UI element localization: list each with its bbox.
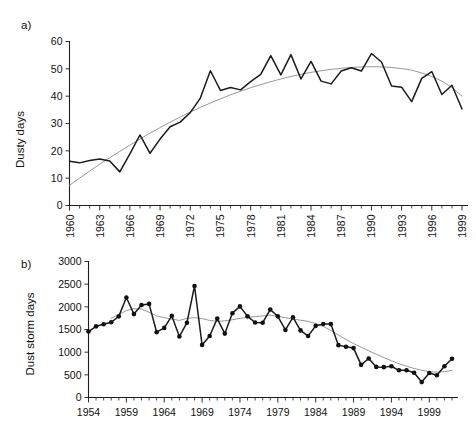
y-tick-label: 0 bbox=[76, 391, 82, 403]
data-point bbox=[329, 322, 334, 327]
data-point bbox=[101, 322, 106, 327]
data-point bbox=[223, 331, 228, 336]
x-tick-label: 1975 bbox=[214, 214, 226, 238]
data-point bbox=[397, 368, 402, 373]
panel-b-x-tick-marks bbox=[89, 398, 453, 403]
data-point bbox=[253, 320, 258, 325]
data-point bbox=[154, 330, 159, 335]
data-point bbox=[291, 315, 296, 320]
y-tick-label: 40 bbox=[51, 90, 63, 102]
data-point bbox=[94, 324, 99, 329]
panel-b-series-line bbox=[89, 286, 453, 382]
x-tick-label: 1996 bbox=[426, 214, 438, 238]
data-point bbox=[245, 314, 250, 319]
y-tick-label: 1000 bbox=[58, 346, 82, 358]
panel-a-tag: a) bbox=[21, 19, 31, 31]
y-tick-label: 3000 bbox=[58, 255, 82, 267]
x-tick-label: 1978 bbox=[245, 214, 257, 238]
data-point bbox=[192, 284, 197, 289]
x-tick-label: 1999 bbox=[418, 406, 442, 418]
data-point bbox=[404, 368, 409, 373]
panel-b-trend-line bbox=[111, 309, 452, 372]
data-point bbox=[268, 307, 273, 312]
x-tick-label: 1972 bbox=[184, 214, 196, 238]
data-point bbox=[450, 356, 455, 361]
y-tick-label: 1500 bbox=[58, 323, 82, 335]
data-point bbox=[147, 302, 152, 307]
data-point bbox=[412, 370, 417, 375]
data-point bbox=[124, 295, 129, 300]
x-tick-label: 1960 bbox=[64, 214, 76, 238]
data-point bbox=[359, 363, 364, 368]
y-tick-label: 20 bbox=[51, 145, 63, 157]
data-point bbox=[207, 334, 212, 339]
data-point bbox=[306, 334, 311, 339]
panel-b: b) Dust storm days 050010001500200025003… bbox=[21, 255, 458, 417]
x-tick-label: 1964 bbox=[153, 406, 177, 418]
x-tick-label: 1993 bbox=[396, 214, 408, 238]
x-tick-label: 1969 bbox=[154, 214, 166, 238]
x-tick-label: 1984 bbox=[305, 214, 317, 238]
x-tick-label: 1999 bbox=[456, 214, 468, 238]
data-point bbox=[276, 314, 281, 319]
panel-a-y-axis-title: Dusty days bbox=[14, 111, 26, 168]
data-point bbox=[238, 304, 243, 309]
x-tick-label: 1969 bbox=[190, 406, 214, 418]
data-point bbox=[230, 311, 235, 316]
data-point bbox=[313, 324, 318, 329]
data-point bbox=[435, 373, 440, 378]
panel-b-x-tick-labels: 1954195919641969197419791984198919941999 bbox=[77, 406, 441, 418]
data-point bbox=[344, 344, 349, 349]
data-point bbox=[321, 322, 326, 327]
data-point bbox=[116, 314, 121, 319]
dust-figure-svg: a) Dusty days 0102030405060 196019631966… bbox=[0, 0, 476, 433]
data-point bbox=[366, 356, 371, 361]
data-point bbox=[389, 364, 394, 369]
data-point bbox=[185, 320, 190, 325]
y-tick-label: 30 bbox=[51, 117, 63, 129]
x-tick-label: 1963 bbox=[94, 214, 106, 238]
data-point bbox=[86, 329, 91, 334]
y-tick-label: 60 bbox=[51, 35, 63, 47]
x-tick-label: 1979 bbox=[266, 406, 290, 418]
x-tick-label: 1989 bbox=[342, 406, 366, 418]
y-tick-label: 10 bbox=[51, 172, 63, 184]
panel-a: a) Dusty days 0102030405060 196019631966… bbox=[14, 19, 468, 238]
data-point bbox=[382, 365, 387, 370]
data-point bbox=[427, 371, 432, 376]
data-point bbox=[162, 326, 167, 331]
data-point bbox=[374, 365, 379, 370]
panel-b-y-tick-labels: 050010001500200025003000 bbox=[58, 255, 82, 403]
y-tick-label: 0 bbox=[57, 199, 63, 211]
data-point bbox=[177, 334, 182, 339]
data-point bbox=[442, 364, 447, 369]
x-tick-label: 1984 bbox=[304, 406, 328, 418]
panel-a-trend-line bbox=[70, 67, 463, 186]
x-tick-label: 1954 bbox=[77, 406, 101, 418]
x-tick-label: 1994 bbox=[380, 406, 404, 418]
data-point bbox=[419, 380, 424, 385]
panel-a-y-tick-marks bbox=[66, 42, 70, 206]
data-point bbox=[139, 303, 144, 308]
y-tick-label: 500 bbox=[64, 369, 82, 381]
data-point bbox=[109, 320, 114, 325]
panel-a-x-tick-marks bbox=[70, 206, 463, 211]
x-tick-label: 1974 bbox=[228, 406, 252, 418]
data-point bbox=[298, 328, 303, 333]
panel-a-series-line bbox=[70, 54, 463, 172]
data-point bbox=[200, 343, 205, 348]
data-point bbox=[336, 343, 341, 348]
data-point bbox=[260, 320, 265, 325]
x-tick-label: 1966 bbox=[124, 214, 136, 238]
panel-b-y-axis-title: Dust storm days bbox=[24, 292, 36, 375]
x-tick-label: 1959 bbox=[115, 406, 139, 418]
y-tick-label: 50 bbox=[51, 63, 63, 75]
data-point bbox=[215, 316, 220, 321]
x-tick-label: 1981 bbox=[275, 214, 287, 238]
y-tick-label: 2500 bbox=[58, 278, 82, 290]
panel-a-x-tick-labels: 1960196319661969197219751978198119841987… bbox=[64, 214, 469, 238]
panel-a-y-tick-labels: 0102030405060 bbox=[51, 35, 63, 211]
data-point bbox=[351, 346, 356, 351]
x-tick-label: 1990 bbox=[365, 214, 377, 238]
data-point bbox=[132, 312, 137, 317]
